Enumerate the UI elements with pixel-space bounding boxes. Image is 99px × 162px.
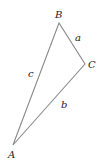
vertex-label-b: B	[54, 9, 62, 20]
triangle-diagram: B C A a b c	[0, 0, 99, 162]
side-label-b: b	[61, 99, 67, 110]
vertex-label-c: C	[88, 59, 96, 70]
side-label-a: a	[75, 32, 81, 43]
vertex-label-a: A	[7, 149, 15, 160]
side-label-c: c	[28, 68, 34, 79]
